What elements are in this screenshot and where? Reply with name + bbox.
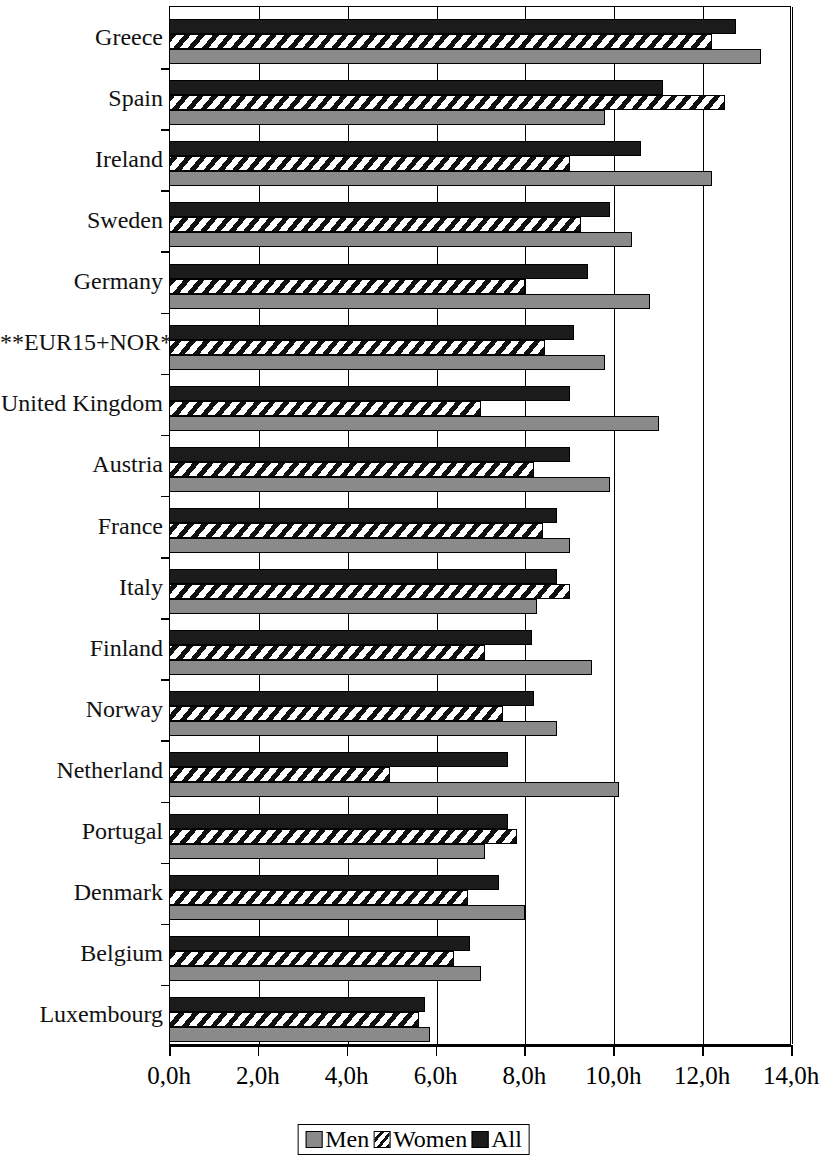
- x-axis-line: [169, 1045, 791, 1047]
- x-axis-tick: [613, 1045, 615, 1056]
- bar-men-france: [170, 538, 570, 553]
- y-axis-tick: [161, 740, 170, 742]
- x-axis-label-0-0h: 0,0h: [147, 1062, 191, 1090]
- category-label-eur15-nor: **EUR15+NOR*: [0, 329, 163, 356]
- men-swatch-icon: [305, 1131, 322, 1148]
- y-axis-tick: [161, 802, 170, 804]
- category-label-sweden: Sweden: [0, 207, 163, 234]
- bar-women-sweden: [170, 217, 581, 232]
- bar-all-finland: [170, 630, 532, 645]
- category-label-greece: Greece: [0, 24, 163, 51]
- y-axis-tick: [161, 190, 170, 192]
- y-axis-tick: [161, 557, 170, 559]
- gridline: [703, 7, 704, 1044]
- category-label-luxembourg: Luxembourg: [0, 1001, 163, 1028]
- y-axis-tick: [161, 435, 170, 437]
- bar-all-eur15-nor: [170, 325, 574, 340]
- bar-men-eur15-nor: [170, 355, 605, 370]
- bar-all-belgium: [170, 936, 470, 951]
- x-axis-tick: [436, 1045, 438, 1056]
- bar-all-sweden: [170, 202, 610, 217]
- category-label-netherland: Netherland: [0, 757, 163, 784]
- bar-women-greece: [170, 34, 712, 49]
- bar-women-germany: [170, 279, 525, 294]
- legend-label-men: Men: [325, 1127, 369, 1151]
- category-label-portugal: Portugal: [0, 818, 163, 845]
- bar-men-norway: [170, 721, 557, 736]
- bar-women-spain: [170, 95, 725, 110]
- bar-women-italy: [170, 584, 570, 599]
- category-label-spain: Spain: [0, 85, 163, 112]
- bar-men-united-kingdom: [170, 416, 659, 431]
- bar-men-germany: [170, 294, 650, 309]
- bar-men-sweden: [170, 232, 632, 247]
- category-label-france: France: [0, 513, 163, 540]
- all-swatch-icon: [471, 1131, 488, 1148]
- x-axis-tick: [702, 1045, 704, 1056]
- y-axis-tick: [161, 251, 170, 253]
- x-axis-label-6-0h: 6,0h: [414, 1062, 458, 1090]
- bar-men-portugal: [170, 844, 485, 859]
- bar-all-france: [170, 508, 557, 523]
- y-axis-tick: [161, 985, 170, 987]
- legend-label-all: All: [491, 1127, 522, 1151]
- category-label-denmark: Denmark: [0, 879, 163, 906]
- bar-women-netherland: [170, 767, 390, 782]
- bar-women-belgium: [170, 951, 454, 966]
- chart-legend: MenWomenAll: [297, 1124, 530, 1155]
- bar-women-austria: [170, 462, 534, 477]
- y-axis-tick: [161, 679, 170, 681]
- x-axis-tick: [524, 1045, 526, 1056]
- bar-men-netherland: [170, 782, 619, 797]
- y-axis-tick: [161, 924, 170, 926]
- bar-all-austria: [170, 447, 570, 462]
- category-label-united-kingdom: United Kingdom: [0, 390, 163, 417]
- x-axis-label-2-0h: 2,0h: [236, 1062, 280, 1090]
- category-label-finland: Finland: [0, 635, 163, 662]
- bar-all-norway: [170, 691, 534, 706]
- x-axis-tick: [791, 1045, 793, 1056]
- y-axis-tick: [161, 496, 170, 498]
- y-axis-tick: [161, 374, 170, 376]
- bar-men-luxembourg: [170, 1027, 430, 1042]
- legend-item-men[interactable]: Men: [305, 1127, 369, 1151]
- bar-all-greece: [170, 19, 736, 34]
- bar-men-austria: [170, 477, 610, 492]
- bar-all-ireland: [170, 141, 641, 156]
- y-axis-tick: [161, 68, 170, 70]
- bar-women-luxembourg: [170, 1012, 419, 1027]
- legend-label-women: Women: [393, 1127, 467, 1151]
- bar-all-united-kingdom: [170, 386, 570, 401]
- women-swatch-icon: [373, 1131, 390, 1148]
- x-axis-tick: [169, 1045, 171, 1056]
- x-axis-label-12-0h: 12,0h: [674, 1062, 730, 1090]
- bar-men-spain: [170, 110, 605, 125]
- y-axis-tick: [161, 618, 170, 620]
- bar-all-italy: [170, 569, 557, 584]
- legend-item-women[interactable]: Women: [373, 1127, 467, 1151]
- bar-women-norway: [170, 706, 503, 721]
- x-axis-label-8-0h: 8,0h: [503, 1062, 547, 1090]
- category-label-belgium: Belgium: [0, 940, 163, 967]
- y-axis-tick: [161, 863, 170, 865]
- category-label-italy: Italy: [0, 574, 163, 601]
- gridline: [792, 7, 793, 1044]
- bar-men-finland: [170, 660, 592, 675]
- bar-all-denmark: [170, 875, 499, 890]
- bar-men-italy: [170, 599, 537, 614]
- bar-men-greece: [170, 49, 761, 64]
- bar-women-portugal: [170, 829, 517, 844]
- x-axis-label-4-0h: 4,0h: [325, 1062, 369, 1090]
- bar-men-denmark: [170, 905, 525, 920]
- x-axis-tick: [347, 1045, 349, 1056]
- horizontal-bar-chart: GreeceSpainIrelandSwedenGermany**EUR15+N…: [0, 0, 827, 1167]
- bar-women-ireland: [170, 156, 570, 171]
- x-axis-label-10-0h: 10,0h: [585, 1062, 641, 1090]
- bar-all-netherland: [170, 752, 508, 767]
- legend-item-all[interactable]: All: [471, 1127, 522, 1151]
- bar-women-eur15-nor: [170, 340, 545, 355]
- bar-all-portugal: [170, 814, 508, 829]
- bar-women-france: [170, 523, 543, 538]
- category-label-ireland: Ireland: [0, 146, 163, 173]
- x-axis-tick: [258, 1045, 260, 1056]
